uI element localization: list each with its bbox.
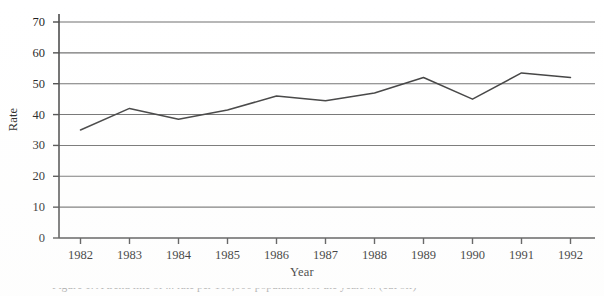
x-axis-ticks bbox=[81, 238, 571, 244]
y-axis-tick-label: 20 bbox=[5, 170, 45, 183]
figure-caption: Figure 1. A trend line of ... rate per 1… bbox=[0, 288, 604, 296]
y-axis-title: Rate bbox=[6, 90, 21, 150]
y-axis-tick-label: 50 bbox=[5, 78, 45, 91]
figure-caption-text: Figure 1. A trend line of ... rate per 1… bbox=[52, 288, 417, 291]
y-axis-tick-label: 70 bbox=[5, 16, 45, 29]
y-axis-ticks bbox=[53, 22, 59, 238]
y-axis-tick-label: 10 bbox=[5, 201, 45, 214]
figure-container: 010203040506070 198219831984198519861987… bbox=[0, 0, 604, 296]
gridlines bbox=[59, 22, 595, 207]
x-axis-tick-label: 1992 bbox=[541, 249, 601, 262]
x-axis-title: Year bbox=[0, 265, 604, 280]
y-axis-tick-label: 60 bbox=[5, 47, 45, 60]
y-axis-tick-label: 0 bbox=[5, 232, 45, 245]
rate-trend-line bbox=[81, 73, 571, 130]
